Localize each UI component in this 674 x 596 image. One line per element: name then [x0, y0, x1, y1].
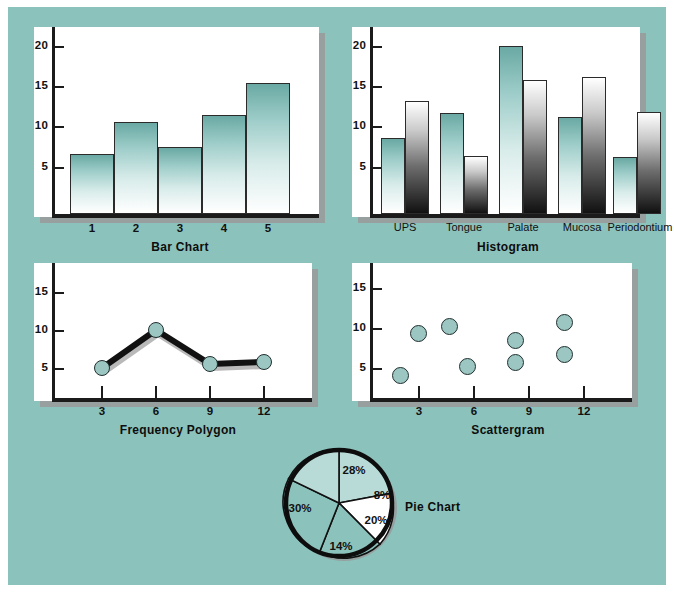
figure-background: 20 15 10 5 1 2 3 4 5 Bar Chart [8, 7, 666, 585]
y-tick-20 [55, 46, 64, 48]
x-tick-label-3: 3 [82, 405, 122, 417]
x-tick-label-12: 12 [244, 405, 284, 417]
x-tick-12 [583, 386, 585, 398]
x-tick-label-4: 4 [204, 222, 244, 234]
bar-3 [158, 147, 202, 214]
bar-chart-caption: Bar Chart [50, 240, 310, 254]
histogram-x-axis [370, 214, 640, 218]
polygon-point-12 [256, 354, 272, 370]
hist-bar-periodontium-dark [637, 112, 661, 214]
hist-bar-tongue-light [440, 113, 464, 214]
scattergram-panel: 15 10 5 3 6 9 12 Scattergram [348, 260, 660, 440]
bar-chart-y-axis [52, 27, 55, 217]
x-tick-label-9: 9 [190, 405, 230, 417]
y-tick-label-20: 20 [338, 39, 366, 51]
pie-label-20: 20% [353, 514, 399, 526]
x-tick-3 [418, 386, 420, 398]
x-tick-label-6: 6 [136, 405, 176, 417]
scatter-point-8 [556, 346, 573, 363]
y-tick-15 [55, 86, 64, 88]
hist-bar-palate-dark [523, 80, 547, 214]
scatter-point-3 [441, 318, 458, 335]
y-tick-10 [373, 126, 382, 128]
y-tick-label-10: 10 [338, 321, 366, 333]
y-tick-15 [373, 86, 382, 88]
scatter-point-2 [410, 325, 427, 342]
y-tick-label-15: 15 [338, 79, 366, 91]
hist-bar-ups-dark [405, 101, 429, 214]
bar-1 [70, 154, 114, 214]
frequency-polygon-line-group [30, 260, 330, 440]
hist-bar-ups-light [381, 138, 405, 214]
histogram-panel: 20 15 10 5 UPS Tongue Palate Mucosa Peri… [348, 24, 660, 249]
y-tick-label-20: 20 [20, 39, 48, 51]
frequency-polygon-panel: 15 10 5 3 6 9 12 Frequency Polygon [30, 260, 330, 440]
x-tick-label-9: 9 [509, 405, 549, 417]
y-tick-label-5: 5 [20, 160, 48, 172]
bar-4 [202, 115, 246, 214]
pie-label-14: 14% [318, 540, 364, 552]
bar-chart-x-axis [52, 214, 319, 218]
scattergram-y-axis [370, 263, 373, 401]
x-tick-label-3: 3 [160, 222, 200, 234]
y-tick-label-5: 5 [338, 160, 366, 172]
hist-bar-tongue-dark [464, 156, 488, 214]
x-tick-label-5: 5 [248, 222, 288, 234]
y-tick-10 [55, 126, 64, 128]
figure-page: 20 15 10 5 1 2 3 4 5 Bar Chart [0, 0, 674, 596]
scatter-point-4 [459, 358, 476, 375]
hist-bar-mucosa-light [558, 117, 582, 214]
histogram-y-axis [370, 27, 373, 217]
y-tick-label-15: 15 [338, 281, 366, 293]
scatter-point-5 [507, 332, 524, 349]
x-tick-label-12: 12 [564, 405, 604, 417]
x-tick-label-6: 6 [454, 405, 494, 417]
scattergram-x-axis [370, 398, 632, 402]
pie-chart-caption: Pie Chart [405, 500, 495, 514]
pie-label-8: 8% [363, 489, 401, 501]
y-tick-5 [55, 167, 64, 169]
bar-2 [114, 122, 158, 214]
scatter-point-7 [556, 314, 573, 331]
x-tick-6 [473, 386, 475, 398]
pie-label-28: 28% [331, 464, 377, 476]
hist-bar-periodontium-light [613, 157, 637, 214]
scatter-point-1 [392, 367, 409, 384]
hist-cat-label-periodontium: Periodontium [600, 221, 674, 233]
x-tick-9 [528, 386, 530, 398]
y-tick-10 [373, 328, 382, 330]
y-tick-label-10: 10 [20, 119, 48, 131]
x-tick-label-1: 1 [72, 222, 112, 234]
x-tick-label-2: 2 [116, 222, 156, 234]
hist-bar-mucosa-dark [582, 77, 606, 214]
bar-5 [246, 83, 290, 214]
y-tick-15 [373, 288, 382, 290]
hist-cat-label-palate: Palate [491, 221, 555, 233]
hist-cat-label-tongue: Tongue [432, 221, 496, 233]
x-tick-label-3: 3 [399, 405, 439, 417]
bar-chart-panel: 20 15 10 5 1 2 3 4 5 Bar Chart [30, 24, 330, 249]
scatter-point-6 [507, 354, 524, 371]
histogram-caption: Histogram [378, 240, 638, 254]
y-tick-label-5: 5 [338, 361, 366, 373]
polygon-point-6 [148, 322, 164, 338]
hist-cat-label-ups: UPS [373, 221, 437, 233]
frequency-polygon-line [102, 330, 264, 368]
y-tick-label-15: 15 [20, 79, 48, 91]
pie-chart-panel: 28% 8% 20% 14% 30% Pie Chart [253, 432, 513, 582]
y-tick-20 [373, 46, 382, 48]
y-tick-5 [373, 368, 382, 370]
polygon-point-3 [94, 360, 110, 376]
y-tick-label-10: 10 [338, 119, 366, 131]
polygon-point-9 [202, 356, 218, 372]
hist-bar-palate-light [499, 46, 523, 214]
pie-label-30: 30% [277, 502, 323, 514]
